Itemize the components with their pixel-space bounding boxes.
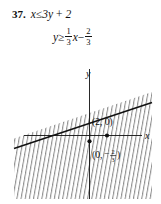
y-intercept-label-numerator: 2 — [112, 148, 115, 155]
y-intercept-label-denominator: 3 — [112, 156, 115, 163]
fraction-one-third: 13 — [65, 27, 71, 46]
fraction-denominator: 3 — [65, 38, 71, 47]
fraction-denominator: 3 — [85, 38, 91, 47]
exercise-figure: 37.x≤3y + 2 y≥13x−23 — [0, 0, 161, 204]
coordinate-graph: y x (2, 0) (0, − 2 3 ) — [0, 55, 161, 204]
given-rhs: 3y + 2 — [42, 8, 71, 20]
y-intercept-label-open: (0, — [92, 150, 102, 161]
solved-operator: − — [78, 31, 85, 43]
problem-line-1: 37.x≤3y + 2 — [12, 8, 71, 21]
axis-label-x: x — [144, 130, 150, 141]
solved-relation: ≥ — [58, 31, 64, 43]
axis-label-y: y — [85, 68, 91, 79]
point-0-neg-two-thirds — [87, 139, 91, 143]
y-intercept-label-minus: − — [104, 149, 109, 159]
y-intercept-label-close: ) — [117, 150, 120, 161]
fraction-numerator: 1 — [65, 27, 71, 36]
point-2-0 — [105, 133, 109, 137]
fraction-two-thirds: 23 — [85, 27, 91, 46]
x-intercept-label: (2, 0) — [92, 117, 113, 128]
problem-number: 37. — [12, 8, 26, 20]
problem-statement: 37.x≤3y + 2 y≥13x−23 — [0, 0, 161, 58]
problem-line-2: y≥13x−23 — [53, 27, 93, 46]
fraction-numerator: 2 — [85, 27, 91, 36]
